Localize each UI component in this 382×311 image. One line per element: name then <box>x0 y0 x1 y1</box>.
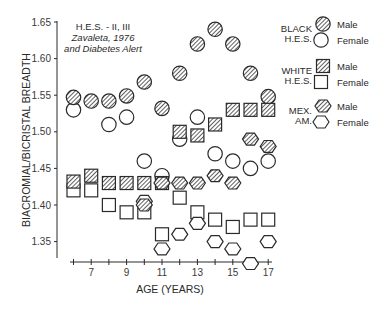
circle-hatched-data-point <box>119 89 133 103</box>
square-hatched-legend-icon <box>317 60 330 73</box>
y-tick-label: 1.45 <box>32 163 52 174</box>
legend: BLACKH.E.S.MaleFemaleWHITEH.E.S.MaleFema… <box>281 17 369 128</box>
y-tick-label: 1.50 <box>32 126 52 137</box>
hexagon-open-legend-icon <box>313 116 329 128</box>
legend-entry-label: Female <box>337 35 369 46</box>
legend-group-label: AM. <box>295 115 312 126</box>
square-hatched-data-point <box>138 177 151 190</box>
scatter-chart: 1.351.401.451.501.551.601.65 7911131517 … <box>0 0 382 311</box>
legend-entry-label: Male <box>337 101 358 112</box>
series-white-h-e-s-female <box>67 184 275 241</box>
circle-open-data-point <box>137 154 151 168</box>
circle-open-data-point <box>119 110 133 124</box>
circle-hatched-data-point <box>208 22 222 36</box>
hexagon-open-data-point <box>207 236 223 248</box>
hexagon-hatched-legend-icon <box>315 100 331 112</box>
circle-hatched-data-point <box>243 66 257 80</box>
hexagon-open-data-point <box>154 243 170 255</box>
legend-group-label: H.E.S. <box>285 33 312 44</box>
square-hatched-data-point <box>120 177 133 190</box>
circle-open-data-point <box>226 154 240 168</box>
circle-hatched-data-point <box>84 94 98 108</box>
hexagon-hatched-data-point <box>243 133 259 145</box>
square-open-data-point <box>244 213 257 226</box>
x-tick-label: 13 <box>192 267 204 278</box>
square-hatched-data-point <box>244 103 257 116</box>
square-hatched-data-point <box>262 103 275 116</box>
legend-group-0: BLACKH.E.S.MaleFemale <box>281 17 369 47</box>
hexagon-hatched-data-point <box>225 177 241 189</box>
series-white-h-e-s-male <box>67 103 275 189</box>
hexagon-open-data-point <box>260 236 276 248</box>
square-open-data-point <box>209 213 222 226</box>
y-tick-label: 1.40 <box>32 200 52 211</box>
hexagon-hatched-data-point <box>154 177 170 189</box>
hexagon-open-data-point <box>225 243 241 255</box>
square-open-legend-icon <box>315 76 328 89</box>
x-axis-title: AGE (YEARS) <box>136 283 204 295</box>
square-hatched-data-point <box>102 177 115 190</box>
hexagon-hatched-data-point <box>207 170 223 182</box>
hexagon-hatched-data-point <box>172 177 188 189</box>
square-open-data-point <box>156 228 169 241</box>
hexagon-hatched-data-point <box>136 199 152 211</box>
legend-entry-label: Male <box>337 19 358 30</box>
plot-markers <box>66 22 276 269</box>
source-annotation: H.E.S. - II, III Zavaleta, 1976 and Diab… <box>64 21 142 54</box>
circle-open-data-point <box>243 161 257 175</box>
legend-entry-label: Male <box>337 61 358 72</box>
circle-open-data-point <box>102 117 116 131</box>
circle-hatched-data-point <box>66 90 80 104</box>
square-hatched-data-point <box>173 125 186 138</box>
square-open-data-point <box>102 199 115 212</box>
square-open-data-point <box>262 213 275 226</box>
x-tick-label: 15 <box>227 267 239 278</box>
annotation-line-3: and Diabetes Alert <box>64 43 142 54</box>
circle-hatched-data-point <box>226 37 240 51</box>
hexagon-hatched-data-point <box>260 141 276 153</box>
square-hatched-data-point <box>67 175 80 188</box>
y-tick-label: 1.60 <box>32 53 52 64</box>
x-tick-label: 17 <box>263 267 275 278</box>
circle-hatched-data-point <box>261 89 275 103</box>
x-tick-label: 9 <box>124 267 130 278</box>
legend-entry-label: Female <box>337 77 369 88</box>
x-tick-label: 7 <box>88 267 94 278</box>
legend-group-1: WHITEH.E.S.MaleFemale <box>281 60 368 89</box>
circle-open-data-point <box>261 154 275 168</box>
circle-open-data-point <box>190 110 204 124</box>
annotation-line-1: H.E.S. - II, III <box>76 21 130 32</box>
circle-open-data-point <box>208 147 222 161</box>
x-tick-label: 11 <box>157 267 168 278</box>
circle-hatched-data-point <box>173 66 187 80</box>
square-open-data-point <box>85 184 98 197</box>
square-hatched-data-point <box>209 118 222 131</box>
circle-hatched-data-point <box>102 94 116 108</box>
hexagon-open-data-point <box>189 217 205 229</box>
square-open-data-point <box>173 191 186 204</box>
hexagon-hatched-data-point <box>189 177 205 189</box>
circle-hatched-legend-icon <box>316 17 330 31</box>
circle-open-legend-icon <box>314 33 328 47</box>
circle-hatched-data-point <box>155 101 169 115</box>
circle-hatched-data-point <box>190 37 204 51</box>
square-hatched-data-point <box>226 103 239 116</box>
annotation-line-2: Zavaleta, 1976 <box>71 32 136 43</box>
square-hatched-data-point <box>191 129 204 142</box>
y-tick-label: 1.55 <box>32 90 52 101</box>
legend-group-label: H.E.S. <box>285 75 312 86</box>
y-tick-label: 1.65 <box>32 17 52 28</box>
hexagon-open-data-point <box>243 258 259 270</box>
hexagon-open-data-point <box>172 228 188 240</box>
square-open-data-point <box>120 206 133 219</box>
y-axis-title: BIACROMIAL/BICRISTAL BREADTH <box>20 53 32 227</box>
circle-hatched-data-point <box>137 75 151 89</box>
y-axis: 1.351.401.451.501.551.601.65 <box>32 17 57 259</box>
legend-entry-label: Female <box>337 117 369 128</box>
square-hatched-data-point <box>85 169 98 182</box>
square-open-data-point <box>226 220 239 233</box>
y-tick-label: 1.35 <box>32 236 52 247</box>
legend-group-2: MEX.AM.MaleFemale <box>289 100 369 128</box>
